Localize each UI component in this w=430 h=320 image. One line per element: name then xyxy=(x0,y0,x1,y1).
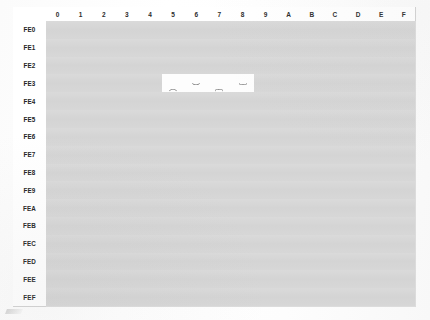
char-cell-FE62[interactable] xyxy=(92,128,115,146)
char-cell-FE8B[interactable] xyxy=(300,164,323,182)
char-cell-FEE0[interactable] xyxy=(46,270,69,288)
row-header-FE0[interactable]: FE0 xyxy=(13,21,46,39)
char-cell-FE7D[interactable] xyxy=(347,146,370,164)
char-cell-FEC3[interactable] xyxy=(115,235,138,253)
char-cell-FE33[interactable] xyxy=(115,74,138,92)
char-cell-FEF5[interactable] xyxy=(162,288,185,307)
char-cell-FEFF[interactable] xyxy=(393,288,416,307)
char-cell-FE6E[interactable] xyxy=(370,128,393,146)
column-header-B[interactable]: B xyxy=(300,7,323,21)
column-header-5[interactable]: 5 xyxy=(162,7,185,21)
char-cell-FE0C[interactable] xyxy=(324,21,347,39)
row-header-FE2[interactable]: FE2 xyxy=(13,57,46,75)
char-cell-FEE7[interactable] xyxy=(208,270,231,288)
char-cell-FE32[interactable] xyxy=(92,74,115,92)
char-cell-FE1E[interactable] xyxy=(370,39,393,57)
char-cell-FEAE[interactable] xyxy=(370,199,393,217)
char-cell-FEDB[interactable] xyxy=(300,253,323,271)
char-cell-FE64[interactable] xyxy=(139,128,162,146)
char-cell-FE2F[interactable] xyxy=(393,57,416,75)
char-cell-FE1F[interactable] xyxy=(393,39,416,57)
char-cell-FEE4[interactable] xyxy=(139,270,162,288)
char-cell-FE6D[interactable] xyxy=(347,128,370,146)
char-cell-FEEE[interactable] xyxy=(370,270,393,288)
char-cell-FEC1[interactable] xyxy=(69,235,92,253)
char-cell-FE91[interactable] xyxy=(69,181,92,199)
char-cell-FE3D[interactable] xyxy=(347,74,370,92)
char-cell-FE21[interactable] xyxy=(69,57,92,75)
char-cell-FE00[interactable] xyxy=(46,21,69,39)
column-header-1[interactable]: 1 xyxy=(69,7,92,21)
char-cell-FE35[interactable]: ︵ xyxy=(162,74,185,92)
char-cell-FEB2[interactable] xyxy=(92,217,115,235)
char-cell-FED7[interactable] xyxy=(208,253,231,271)
row-header-FEB[interactable]: FEB xyxy=(13,217,46,235)
char-cell-FE69[interactable] xyxy=(254,128,277,146)
column-header-F[interactable]: F xyxy=(393,7,416,21)
char-cell-FEAD[interactable] xyxy=(347,199,370,217)
char-cell-FEA5[interactable] xyxy=(162,199,185,217)
char-cell-FE20[interactable] xyxy=(46,57,69,75)
char-cell-FEE9[interactable] xyxy=(254,270,277,288)
row-header-FEC[interactable]: FEC xyxy=(13,235,46,253)
char-cell-FEF6[interactable] xyxy=(185,288,208,307)
char-cell-FE8C[interactable] xyxy=(324,164,347,182)
char-cell-FEDD[interactable] xyxy=(347,253,370,271)
char-cell-FE04[interactable] xyxy=(139,21,162,39)
char-cell-FE57[interactable] xyxy=(208,110,231,128)
char-cell-FE16[interactable] xyxy=(185,39,208,57)
char-cell-FE0E[interactable] xyxy=(370,21,393,39)
char-cell-FE9C[interactable] xyxy=(324,181,347,199)
char-cell-FEA8[interactable] xyxy=(231,199,254,217)
char-cell-FEF4[interactable] xyxy=(139,288,162,307)
char-cell-FEAB[interactable] xyxy=(300,199,323,217)
char-cell-FE5E[interactable] xyxy=(370,110,393,128)
char-cell-FE27[interactable] xyxy=(208,57,231,75)
char-cell-FEC7[interactable] xyxy=(208,235,231,253)
char-cell-FE0D[interactable] xyxy=(347,21,370,39)
char-cell-FE25[interactable] xyxy=(162,57,185,75)
char-cell-FE02[interactable] xyxy=(92,21,115,39)
char-cell-FE61[interactable] xyxy=(69,128,92,146)
char-cell-FE9F[interactable] xyxy=(393,181,416,199)
char-cell-FEDA[interactable] xyxy=(277,253,300,271)
char-cell-FE2B[interactable] xyxy=(300,57,323,75)
char-cell-FE67[interactable] xyxy=(208,128,231,146)
char-cell-FE15[interactable] xyxy=(162,39,185,57)
char-cell-FEEC[interactable] xyxy=(324,270,347,288)
char-cell-FED5[interactable] xyxy=(162,253,185,271)
char-cell-FEF0[interactable] xyxy=(46,288,69,307)
column-header-4[interactable]: 4 xyxy=(139,7,162,21)
char-cell-FE63[interactable] xyxy=(115,128,138,146)
char-cell-FE56[interactable] xyxy=(185,110,208,128)
char-cell-FE5D[interactable] xyxy=(347,110,370,128)
char-cell-FEB6[interactable] xyxy=(185,217,208,235)
char-cell-FE5B[interactable] xyxy=(300,110,323,128)
char-cell-FE44[interactable] xyxy=(139,92,162,110)
char-cell-FEB5[interactable] xyxy=(162,217,185,235)
char-cell-FEA4[interactable] xyxy=(139,199,162,217)
char-cell-FE55[interactable] xyxy=(162,110,185,128)
char-cell-FE05[interactable] xyxy=(162,21,185,39)
char-cell-FEBB[interactable] xyxy=(300,217,323,235)
char-cell-FE9B[interactable] xyxy=(300,181,323,199)
char-cell-FE58[interactable] xyxy=(231,110,254,128)
char-cell-FE8A[interactable] xyxy=(277,164,300,182)
char-cell-FE13[interactable] xyxy=(115,39,138,57)
char-cell-FEB4[interactable] xyxy=(139,217,162,235)
char-cell-FE76[interactable] xyxy=(185,146,208,164)
row-header-FE8[interactable]: FE8 xyxy=(13,164,46,182)
char-cell-FE9A[interactable] xyxy=(277,181,300,199)
char-cell-FE6B[interactable] xyxy=(300,128,323,146)
char-cell-FE1C[interactable] xyxy=(324,39,347,57)
char-cell-FED8[interactable] xyxy=(231,253,254,271)
column-header-A[interactable]: A xyxy=(277,7,300,21)
char-cell-FE45[interactable] xyxy=(162,92,185,110)
char-cell-FE8D[interactable] xyxy=(347,164,370,182)
char-cell-FEB3[interactable] xyxy=(115,217,138,235)
char-cell-FEF7[interactable] xyxy=(208,288,231,307)
char-cell-FE42[interactable] xyxy=(92,92,115,110)
column-header-0[interactable]: 0 xyxy=(46,7,69,21)
column-header-D[interactable]: D xyxy=(347,7,370,21)
char-cell-FE94[interactable] xyxy=(139,181,162,199)
